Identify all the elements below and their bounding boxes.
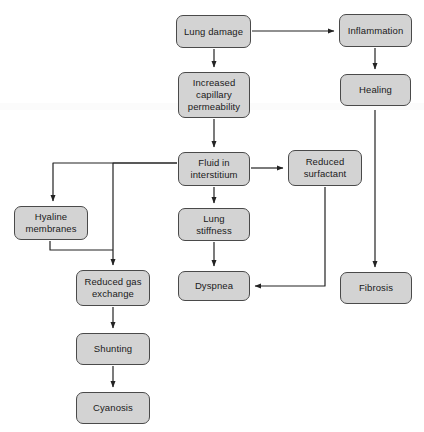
- node-label-fluid-interstitium: Fluid in interstitium: [187, 157, 240, 181]
- node-lung-damage[interactable]: Lung damage: [176, 15, 251, 48]
- node-inflammation[interactable]: Inflammation: [339, 14, 412, 47]
- node-cyanosis[interactable]: Cyanosis: [76, 392, 150, 424]
- node-hyaline-membranes[interactable]: Hyaline membranes: [14, 206, 88, 240]
- node-fibrosis[interactable]: Fibrosis: [340, 272, 412, 304]
- flowchart-canvas: Lung damageInflammationIncreased capilla…: [0, 0, 424, 432]
- node-reduced-gas-exch[interactable]: Reduced gas exchange: [76, 270, 150, 306]
- node-label-increased-cap-perm: Increased capillary permeability: [185, 77, 243, 113]
- node-label-inflammation: Inflammation: [345, 25, 407, 37]
- node-label-shunting: Shunting: [91, 343, 135, 355]
- node-lung-stiffness[interactable]: Lung stiffness: [178, 208, 250, 241]
- node-label-cyanosis: Cyanosis: [90, 402, 136, 414]
- node-increased-cap-perm[interactable]: Increased capillary permeability: [178, 72, 250, 118]
- node-label-reduced-gas-exch: Reduced gas exchange: [81, 276, 144, 300]
- node-dyspnea[interactable]: Dyspnea: [178, 271, 250, 301]
- node-label-lung-damage: Lung damage: [181, 26, 246, 38]
- node-label-fibrosis: Fibrosis: [356, 282, 396, 294]
- edge-surfactant-to-dyspnea: [255, 187, 325, 286]
- edge-fluid-to-hyaline: [53, 163, 177, 201]
- edge-fluid-to-reduced-gas-exchange: [113, 163, 177, 265]
- node-label-reduced-surfactant: Reduced surfactant: [301, 156, 350, 180]
- node-fluid-interstitium[interactable]: Fluid in interstitium: [178, 152, 250, 186]
- node-label-dyspnea: Dyspnea: [192, 280, 236, 292]
- node-label-hyaline-membranes: Hyaline membranes: [22, 211, 79, 235]
- edge-hyaline-to-reduced-gas-exchange: [50, 241, 113, 250]
- node-label-lung-stiffness: Lung stiffness: [193, 213, 235, 237]
- node-label-healing: Healing: [356, 84, 395, 96]
- node-reduced-surfactant[interactable]: Reduced surfactant: [288, 150, 362, 186]
- node-healing[interactable]: Healing: [340, 74, 411, 106]
- node-shunting[interactable]: Shunting: [76, 333, 150, 365]
